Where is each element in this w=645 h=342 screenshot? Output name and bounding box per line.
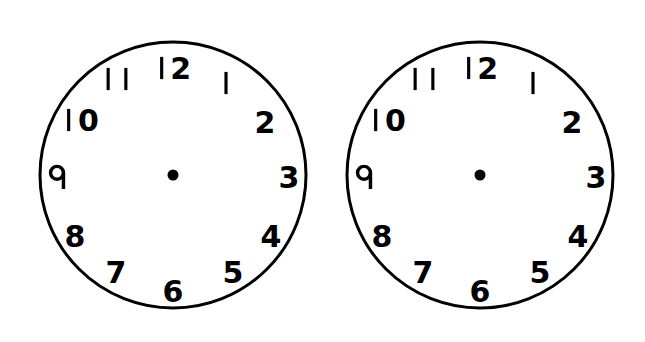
hour-marker-6: 6 <box>470 274 491 309</box>
right-clock-face[interactable]: 223456780 <box>347 42 613 309</box>
numeral-glyph-zero: 0 <box>385 103 406 138</box>
numeral-one-stroke <box>467 57 470 79</box>
numeral-glyph-3: 3 <box>279 160 300 195</box>
clock-center-dot <box>168 170 179 181</box>
numeral-glyph-2: 2 <box>562 105 583 140</box>
numeral-glyph-zero: 0 <box>78 103 99 138</box>
numeral-one-stroke <box>107 68 110 90</box>
numeral-one-stroke <box>431 68 434 90</box>
hour-marker-6: 6 <box>163 274 184 309</box>
hour-marker-3: 3 <box>586 160 607 195</box>
clock-worksheet: 223456780223456780 <box>0 0 645 342</box>
numeral-one-stroke <box>531 72 534 94</box>
hour-marker-2: 2 <box>562 105 583 140</box>
hour-marker-3: 3 <box>279 160 300 195</box>
hour-marker-2: 2 <box>255 105 276 140</box>
hour-marker-1 <box>531 72 534 94</box>
numeral-one-stroke <box>374 109 377 131</box>
numeral-glyph-8: 8 <box>372 219 393 254</box>
hour-marker-8: 8 <box>372 219 393 254</box>
numeral-nine-descender <box>369 173 372 189</box>
numeral-one-stroke <box>67 109 70 131</box>
numeral-glyph-5: 5 <box>223 255 244 290</box>
numeral-glyph-6: 6 <box>163 274 184 309</box>
hour-marker-5: 5 <box>530 255 551 290</box>
hour-marker-7: 7 <box>106 255 127 290</box>
numeral-glyph-7: 7 <box>413 255 434 290</box>
numeral-glyph-2: 2 <box>255 105 276 140</box>
numeral-one-stroke <box>160 57 163 79</box>
clock-worksheet-canvas: 223456780223456780 <box>0 0 645 342</box>
numeral-one-stroke <box>124 68 127 90</box>
numeral-glyph-4: 4 <box>261 219 282 254</box>
hour-marker-4: 4 <box>568 219 589 254</box>
numeral-glyph-6: 6 <box>470 274 491 309</box>
numeral-glyph-7: 7 <box>106 255 127 290</box>
numeral-glyph-4: 4 <box>568 219 589 254</box>
numeral-glyph-3: 3 <box>586 160 607 195</box>
numeral-glyph-two: 2 <box>477 51 498 86</box>
clock-center-dot <box>475 170 486 181</box>
hour-marker-1 <box>224 72 227 94</box>
numeral-glyph-5: 5 <box>530 255 551 290</box>
numeral-nine-descender <box>62 173 65 189</box>
numeral-glyph-8: 8 <box>65 219 86 254</box>
hour-marker-5: 5 <box>223 255 244 290</box>
hour-marker-7: 7 <box>413 255 434 290</box>
numeral-glyph-two: 2 <box>170 51 191 86</box>
hour-marker-4: 4 <box>261 219 282 254</box>
hour-marker-8: 8 <box>65 219 86 254</box>
numeral-one-stroke <box>224 72 227 94</box>
left-clock-face[interactable]: 223456780 <box>40 42 306 309</box>
numeral-one-stroke <box>414 68 417 90</box>
